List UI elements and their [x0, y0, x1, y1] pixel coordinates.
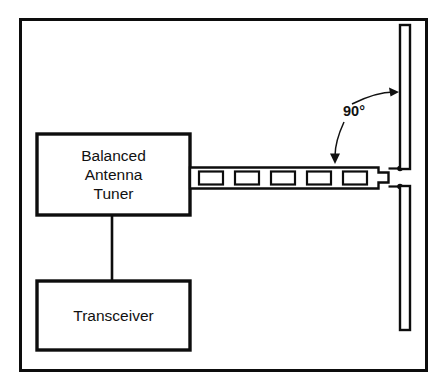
transceiver-label: Transceiver — [73, 307, 153, 324]
upper-element — [400, 25, 410, 169]
tuner-label-line-1: Balanced — [81, 147, 146, 164]
ladder-window — [199, 172, 223, 185]
ladder-window — [307, 172, 331, 185]
angle-label: 90° — [343, 103, 365, 119]
ladder-window — [235, 172, 259, 185]
lower-element — [400, 186, 410, 330]
callout-arrow-to-ladderline-head — [330, 154, 340, 165]
diagram-canvas: 90° Balanced Antenna Tuner Transceiver — [0, 0, 437, 389]
ladder-window — [343, 172, 367, 185]
tuner-label-line-3: Tuner — [94, 185, 134, 202]
callout-arrow-to-element-head — [389, 88, 399, 97]
ladder-window — [271, 172, 295, 185]
callout-arrow-to-ladderline-curve — [335, 122, 344, 156]
tuner-label-line-2: Antenna — [85, 166, 143, 183]
antenna-diagram: 90° Balanced Antenna Tuner Transceiver — [0, 0, 437, 389]
